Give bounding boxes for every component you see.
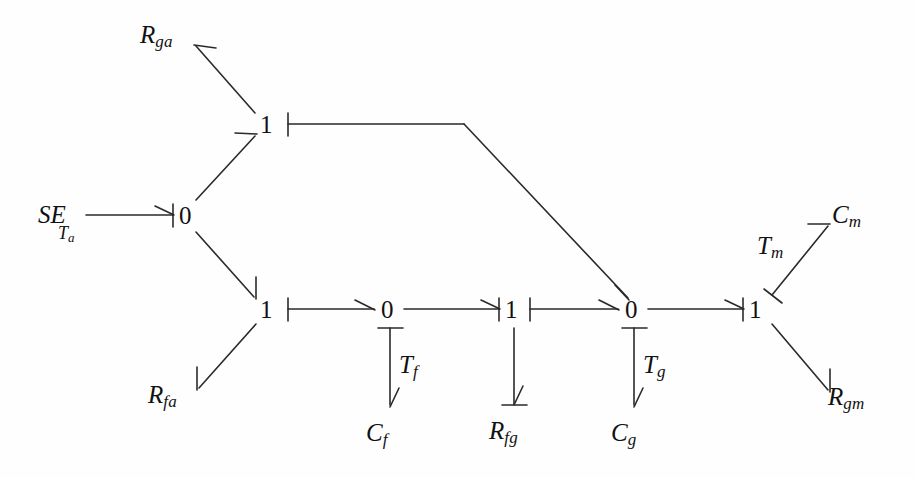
element-label-cg[interactable]: Cg [611,420,636,445]
bond-zero-g-to-one-m [648,298,744,321]
element-label-tf[interactable]: Tf [399,352,418,377]
bond-one-fa-to-rfa [197,324,256,390]
bond-one-fa-to-zero-f [288,298,375,321]
element-label-cm[interactable]: Cm [832,202,861,227]
bond-zero-a-to-one-fa [196,232,256,299]
bond-one-fg-to-zero-g [530,298,619,321]
element-label-rgm[interactable]: Rgm [828,384,864,409]
element-label-rfa[interactable]: Rfa [148,382,177,407]
bond-one-top-to-zero-g [288,113,629,300]
junction-zero-tf[interactable]: 0 [381,297,394,322]
junction-one-fa[interactable]: 1 [260,297,273,322]
junction-one-tm[interactable]: 1 [749,297,762,322]
bond-one-top-to-rga [194,45,255,113]
junction-zero-tg[interactable]: 0 [625,297,638,322]
bond-zero-a-to-one-top [196,133,257,200]
bond-se-to-zero-a [86,204,174,227]
element-label-tm[interactable]: Tm [757,233,783,258]
junction-one-top[interactable]: 1 [260,112,273,137]
bond-graph-figure: SE Ta 1 0 1 0 1 0 1 Rga Rfa Tf Cf Rfg Tg… [0,0,916,478]
element-label-tg[interactable]: Tg [643,352,666,377]
element-label-rga[interactable]: Rga [140,22,173,47]
element-label-cf[interactable]: Cf [366,420,388,445]
bond-zero-f-to-one-fg [404,298,500,321]
source-effort-subscript: Ta [58,224,75,242]
junction-zero-ta[interactable]: 0 [179,203,192,228]
bond-one-fg-to-rfg [502,328,527,405]
element-label-rfg[interactable]: Rfg [489,418,518,443]
junction-one-fg[interactable]: 1 [505,297,518,322]
bond-one-m-to-rgm [772,324,830,392]
